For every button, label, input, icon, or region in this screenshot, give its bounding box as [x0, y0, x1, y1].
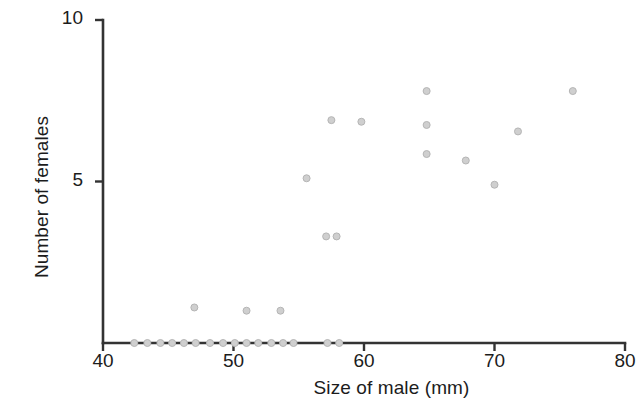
x-tick-label-80: 80	[595, 350, 643, 372]
data-point	[323, 233, 330, 240]
data-point	[514, 128, 521, 135]
data-point	[324, 340, 331, 347]
data-point	[192, 340, 199, 347]
data-point	[569, 88, 576, 95]
data-point	[333, 233, 340, 240]
x-tick-label-50: 50	[204, 350, 264, 372]
data-point	[462, 157, 469, 164]
x-axis-label: Size of male (mm)	[0, 377, 643, 399]
x-tick-label-40: 40	[73, 350, 133, 372]
data-point	[268, 340, 275, 347]
data-point	[358, 118, 365, 125]
data-point	[280, 340, 287, 347]
data-point	[423, 88, 430, 95]
axes-group	[103, 20, 625, 343]
data-point	[277, 307, 284, 314]
data-point	[180, 340, 187, 347]
data-point	[231, 340, 238, 347]
data-point	[243, 340, 250, 347]
data-point	[207, 340, 214, 347]
data-point	[144, 340, 151, 347]
data-point	[131, 340, 138, 347]
data-point	[243, 307, 250, 314]
data-point	[423, 121, 430, 128]
data-point	[157, 340, 164, 347]
data-point	[423, 151, 430, 158]
x-axis-label-text: Size of male (mm)	[314, 377, 470, 399]
data-point	[290, 340, 297, 347]
y-tick-label-5: 5	[23, 169, 83, 191]
data-point	[328, 117, 335, 124]
x-tick-label-70: 70	[465, 350, 525, 372]
data-point	[336, 340, 343, 347]
data-point	[255, 340, 262, 347]
y-axis-label: Number of females	[31, 67, 53, 327]
data-point	[491, 181, 498, 188]
data-point	[191, 304, 198, 311]
y-tick-label-10: 10	[23, 7, 83, 29]
tick-marks-group	[95, 20, 625, 351]
data-point	[220, 340, 227, 347]
data-points-group	[131, 88, 576, 347]
x-tick-label-60: 60	[334, 350, 394, 372]
data-point	[169, 340, 176, 347]
scatter-plot-figure: Number of females Size of male (mm) 4050…	[0, 0, 643, 420]
data-point	[303, 175, 310, 182]
